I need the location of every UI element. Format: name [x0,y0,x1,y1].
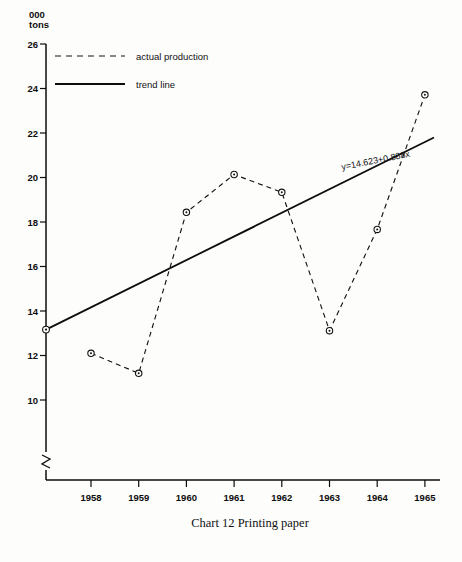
x-tick-label-1958: 1958 [80,492,101,503]
data-point-dot-1963 [329,330,331,332]
legend: actual production trend line [55,51,208,90]
x-tick-label-1961: 1961 [224,492,246,503]
y-tick-label-24: 24 [27,83,38,94]
data-point-dot-1964 [376,228,378,230]
legend-label-trend-line: trend line [136,79,175,90]
data-point-dot-1962 [281,191,283,193]
x-tick-label-1964: 1964 [367,492,389,503]
y-axis-ticks: 26 24 22 20 18 16 14 12 10 [27,39,46,406]
x-tick-label-1963: 1963 [319,492,340,503]
actual-production-markers [88,92,428,377]
x-tick-label-1960: 1960 [176,492,197,503]
y-tick-label-18: 18 [27,217,38,228]
x-axis-ticks: 1958 1959 1960 1961 1962 1963 1964 1965 [80,480,436,503]
x-tick-label-1965: 1965 [414,492,436,503]
x-tick-label-1959: 1959 [128,492,149,503]
y-tick-label-22: 22 [27,128,38,139]
chart-caption: Chart 12 Printing paper [191,516,310,530]
data-point-dot-1965 [424,94,426,96]
y-tick-label-14: 14 [27,306,38,317]
data-point-dot-1961 [233,174,235,176]
data-point-dot-1960 [185,211,187,213]
legend-label-actual-production: actual production [136,51,208,62]
y-tick-label-10: 10 [27,395,38,406]
chart-canvas: 000 tons 26 24 22 20 18 16 14 12 [0,0,462,562]
y-axis-unit-line2: tons [29,19,49,30]
data-point-dot-1958 [90,352,92,354]
y-axis-break-icon [42,455,50,468]
trend-equation-annotation: y=14.623+0.888x [340,149,411,172]
data-point-dot-1959 [138,372,140,374]
trend-line-origin-marker-dot [45,329,47,331]
chart-container: 000 tons 26 24 22 20 18 16 14 12 [0,0,462,562]
actual-production-series [91,95,425,374]
y-tick-label-26: 26 [27,39,38,50]
x-tick-label-1962: 1962 [271,492,292,503]
y-tick-label-16: 16 [27,261,38,272]
y-tick-label-12: 12 [27,350,38,361]
y-tick-label-20: 20 [27,172,38,183]
